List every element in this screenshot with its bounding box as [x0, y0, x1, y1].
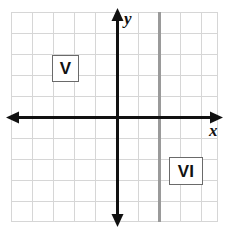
coordinate-plane-canvas: [0, 0, 229, 235]
x-axis-arrow-left: [6, 112, 19, 124]
y-axis-arrow-down: [112, 214, 124, 227]
x-axis-label: x: [209, 122, 218, 139]
coordinate-plane-figure: y x V VI: [0, 0, 229, 235]
region-label-v: V: [52, 55, 79, 82]
region-label-vi: VI: [169, 157, 203, 185]
y-axis-arrow-up: [112, 8, 124, 21]
y-axis-label: y: [124, 10, 132, 27]
x-axis: [6, 112, 223, 124]
